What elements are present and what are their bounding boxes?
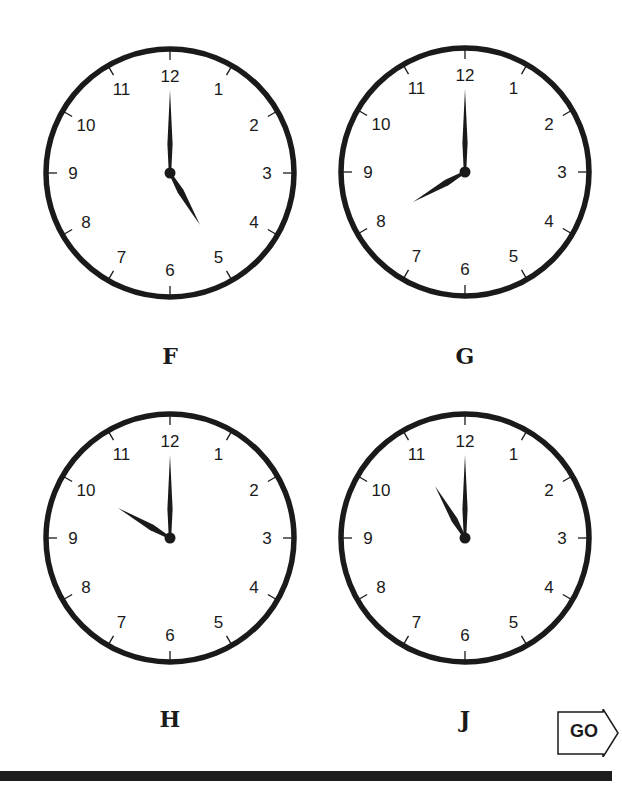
dial-number: 12 bbox=[456, 66, 475, 85]
center-hub bbox=[460, 167, 471, 178]
dial-number: 10 bbox=[372, 115, 391, 134]
dial-number: 6 bbox=[460, 626, 469, 645]
choice-label-h: H bbox=[140, 708, 200, 730]
dial-number: 6 bbox=[165, 261, 174, 280]
dial-number: 1 bbox=[509, 79, 518, 98]
dial-number: 7 bbox=[412, 247, 421, 266]
choice-label-g: G bbox=[435, 345, 495, 367]
dial-number: 4 bbox=[544, 578, 553, 597]
dial-number: 10 bbox=[77, 116, 96, 135]
dial-number: 3 bbox=[557, 163, 566, 182]
dial-number: 11 bbox=[408, 445, 426, 464]
dial-number: 9 bbox=[363, 529, 372, 548]
clock-face-icon: 121234567891011 bbox=[334, 41, 596, 303]
dial-number: 5 bbox=[214, 248, 223, 267]
dial-number: 3 bbox=[262, 164, 271, 183]
dial-number: 8 bbox=[376, 578, 385, 597]
dial-number: 6 bbox=[460, 260, 469, 279]
dial-number: 6 bbox=[165, 626, 174, 645]
dial-number: 9 bbox=[68, 529, 77, 548]
dial-number: 1 bbox=[214, 445, 223, 464]
center-hub bbox=[460, 533, 471, 544]
clock-face-icon: 121234567891011 bbox=[39, 42, 301, 304]
go-label: GO bbox=[562, 721, 606, 742]
dial-number: 2 bbox=[544, 481, 553, 500]
dial-number: 1 bbox=[509, 445, 518, 464]
dial-number: 5 bbox=[509, 247, 518, 266]
dial-number: 7 bbox=[412, 613, 421, 632]
dial-number: 8 bbox=[376, 212, 385, 231]
clock-j[interactable]: 121234567891011 bbox=[334, 407, 596, 669]
dial-number: 9 bbox=[363, 163, 372, 182]
dial-number: 2 bbox=[249, 116, 258, 135]
dial-number: 8 bbox=[81, 213, 90, 232]
choice-label-f: F bbox=[140, 345, 200, 367]
dial-number: 12 bbox=[456, 432, 475, 451]
dial-number: 2 bbox=[249, 481, 258, 500]
dial-number: 9 bbox=[68, 164, 77, 183]
dial-number: 5 bbox=[509, 613, 518, 632]
dial-number: 10 bbox=[372, 481, 391, 500]
clock-h[interactable]: 121234567891011 bbox=[39, 407, 301, 669]
dial-number: 12 bbox=[161, 432, 180, 451]
dial-number: 3 bbox=[262, 529, 271, 548]
dial-number: 1 bbox=[214, 80, 223, 99]
dial-number: 11 bbox=[408, 79, 426, 98]
dial-number: 8 bbox=[81, 578, 90, 597]
dial-number: 4 bbox=[249, 213, 258, 232]
clock-f[interactable]: 121234567891011 bbox=[39, 42, 301, 304]
dial-number: 5 bbox=[214, 613, 223, 632]
dial-number: 11 bbox=[113, 445, 131, 464]
dial-number: 12 bbox=[161, 67, 180, 86]
clock-g[interactable]: 121234567891011 bbox=[334, 41, 596, 303]
dial-number: 4 bbox=[544, 212, 553, 231]
go-button[interactable]: GO bbox=[556, 709, 620, 757]
dial-number: 3 bbox=[557, 529, 566, 548]
dial-number: 11 bbox=[113, 80, 131, 99]
dial-number: 4 bbox=[249, 578, 258, 597]
dial-number: 7 bbox=[117, 248, 126, 267]
choice-label-j: J bbox=[435, 708, 495, 730]
center-hub bbox=[165, 168, 176, 179]
center-hub bbox=[165, 533, 176, 544]
clock-face-icon: 121234567891011 bbox=[334, 407, 596, 669]
clock-face-icon: 121234567891011 bbox=[39, 407, 301, 669]
dial-number: 10 bbox=[77, 481, 96, 500]
dial-number: 2 bbox=[544, 115, 553, 134]
dial-number: 7 bbox=[117, 613, 126, 632]
bottom-divider bbox=[0, 771, 612, 781]
